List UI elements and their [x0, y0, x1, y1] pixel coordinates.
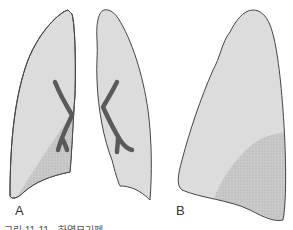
- lung-b-lateral: [178, 10, 290, 225]
- lung-diagram: [0, 0, 293, 230]
- panel-label-a: A: [15, 203, 24, 218]
- figure-caption: 그림 11-11 · 하엽무기폐: [4, 222, 103, 230]
- lung-a-right: [97, 10, 152, 200]
- panel-label-b: B: [176, 203, 185, 218]
- lung-a-left: [10, 10, 80, 200]
